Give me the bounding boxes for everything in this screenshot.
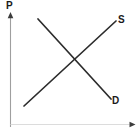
price-axis-label: P: [6, 1, 13, 11]
y-axis-arrowhead-icon: [8, 12, 14, 18]
supply-curve: [24, 21, 116, 106]
supply-demand-diagram: P S D: [0, 0, 139, 128]
supply-label: S: [118, 15, 125, 25]
demand-curve: [38, 19, 111, 99]
x-axis-arrowhead-icon: [130, 122, 136, 127]
demand-label: D: [112, 96, 119, 106]
